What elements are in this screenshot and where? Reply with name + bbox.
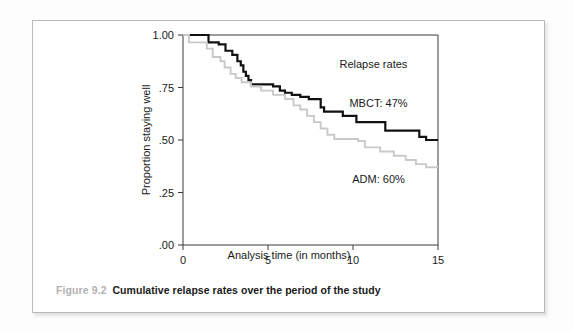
y-tick-label: .50 bbox=[159, 134, 174, 146]
y-tick-label: .25 bbox=[159, 187, 174, 199]
y-axis-title: Proportion staying well bbox=[140, 85, 152, 196]
figure-caption: Figure 9.2 Cumulative relapse rates over… bbox=[56, 283, 526, 297]
x-tick-label: 15 bbox=[432, 254, 444, 266]
y-tick-label: .75 bbox=[159, 82, 174, 94]
relapse-rates-chart: .00.25.50.751.00 051015 Relapse ratesMBC… bbox=[33, 21, 546, 266]
x-tick-label: 0 bbox=[180, 254, 186, 266]
chart-annotation: Relapse rates bbox=[339, 58, 407, 70]
figure-box: .00.25.50.751.00 051015 Relapse ratesMBC… bbox=[32, 20, 545, 313]
y-tick-label: 1.00 bbox=[153, 29, 174, 41]
chart-annotation: MBCT: 47% bbox=[349, 97, 407, 109]
chart-area: .00.25.50.751.00 051015 Relapse ratesMBC… bbox=[33, 21, 546, 266]
scan-page-background: .00.25.50.751.00 051015 Relapse ratesMBC… bbox=[0, 0, 573, 331]
figure-caption-text: Cumulative relapse rates over the period… bbox=[112, 284, 380, 296]
y-axis-ticks: .00.25.50.751.00 bbox=[153, 29, 183, 251]
y-tick-label: .00 bbox=[159, 239, 174, 251]
figure-number: Figure 9.2 bbox=[56, 284, 107, 296]
x-axis-title: Analysis time (in months) bbox=[228, 249, 351, 261]
series-line-mbct bbox=[183, 35, 438, 140]
chart-annotation: ADM: 60% bbox=[352, 173, 405, 185]
